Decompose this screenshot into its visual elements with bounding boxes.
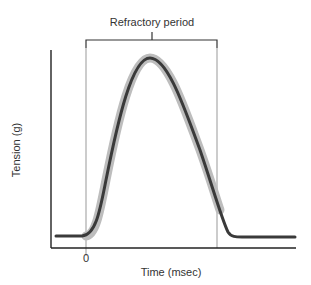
x-axis-label: Time (msec) bbox=[141, 266, 202, 278]
y-axis-label: Tension (g) bbox=[10, 123, 22, 177]
tension-curve bbox=[56, 58, 295, 237]
refractory-bracket bbox=[86, 32, 217, 48]
refractory-period-label: Refractory period bbox=[110, 16, 194, 28]
x-tick-zero: 0 bbox=[83, 252, 89, 264]
twitch-diagram: Refractory period 0 Time (msec) Tension … bbox=[0, 0, 311, 285]
